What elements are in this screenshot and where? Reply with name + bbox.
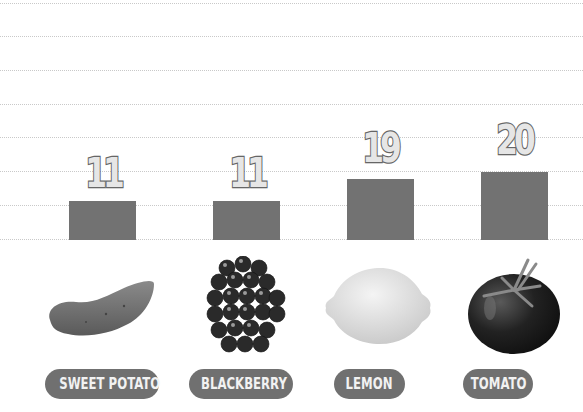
bar-lemon bbox=[347, 179, 414, 240]
value-label-lemon: 19 bbox=[345, 126, 415, 170]
gridline bbox=[0, 70, 583, 71]
category-label-sweet-potato: SWEET POTATO bbox=[45, 369, 159, 399]
value-label-tomato: 20 bbox=[479, 118, 549, 162]
bar-sweet-potato bbox=[69, 201, 136, 240]
sweet-potato-icon bbox=[46, 276, 158, 340]
lemon-icon bbox=[322, 264, 434, 348]
value-label-sweet-potato: 11 bbox=[68, 151, 138, 195]
tomato-icon bbox=[466, 256, 562, 356]
value-label-blackberry: 11 bbox=[212, 151, 282, 195]
gridline bbox=[0, 104, 583, 105]
gridline bbox=[0, 36, 583, 37]
category-label-lemon: LEMON bbox=[334, 369, 405, 399]
blackberry-icon bbox=[205, 256, 287, 354]
bar-blackberry bbox=[213, 201, 280, 240]
category-label-blackberry: BLACKBERRY bbox=[189, 369, 293, 399]
bar-tomato bbox=[481, 172, 548, 240]
gridline bbox=[0, 3, 583, 4]
category-label-tomato: TOMATO bbox=[463, 369, 533, 399]
